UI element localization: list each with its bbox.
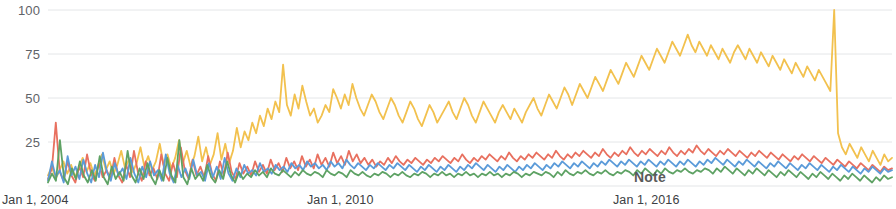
series-line-series_4: [48, 10, 892, 179]
trends-line-chart: 100 75 50 25 Jan 1, 2004 Jan 1, 2010 Jan…: [0, 0, 896, 209]
y-axis-tick-100: 100: [0, 3, 40, 18]
note-annotation: Note: [634, 169, 666, 185]
x-axis-tick-start: Jan 1, 2004: [2, 193, 68, 207]
y-axis-tick-25: 25: [0, 135, 40, 150]
y-axis-tick-75: 75: [0, 47, 40, 62]
x-axis-tick-end: Jan 1, 2016: [613, 193, 679, 207]
chart-plot-area: [0, 0, 896, 209]
x-axis-tick-middle: Jan 1, 2010: [307, 193, 373, 207]
series-lines: [48, 10, 892, 184]
y-axis-tick-50: 50: [0, 91, 40, 106]
